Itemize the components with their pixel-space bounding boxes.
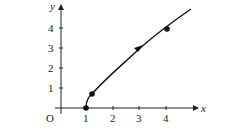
origin-label: O xyxy=(46,112,54,124)
x-tick-label: 4 xyxy=(163,112,169,124)
point-marker xyxy=(89,91,95,97)
direction-arrow-icon xyxy=(134,45,143,52)
y-axis-label: y xyxy=(49,0,55,12)
x-tick-label: 1 xyxy=(83,112,89,124)
graph: 1 2 3 4 1 2 3 4 x y O xyxy=(0,0,227,136)
y-tick-label: 2 xyxy=(48,62,54,74)
x-axis-label: x xyxy=(200,102,206,114)
y-tick-label: 3 xyxy=(48,42,54,54)
y-tick-label: 1 xyxy=(48,82,54,94)
point-marker xyxy=(83,105,89,111)
x-tick-label: 3 xyxy=(136,112,142,124)
x-tick-label: 2 xyxy=(110,112,116,124)
y-tick-label: 4 xyxy=(48,22,54,34)
point-marker xyxy=(164,26,170,32)
curve xyxy=(86,9,191,108)
